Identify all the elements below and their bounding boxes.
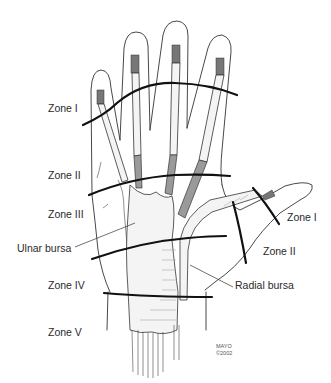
label-zone-1: Zone I [48, 103, 78, 114]
flexor-tendons [97, 45, 275, 378]
label-thumb-zone-2: Zone II [263, 246, 296, 257]
thumb-zone-line-2 [233, 202, 246, 263]
radial-bursa-leader [190, 265, 233, 287]
label-zone-5: Zone V [48, 327, 82, 338]
copyright-credit: MAYO ©2002 [216, 343, 232, 357]
label-thumb-zone-1: Zone I [287, 212, 317, 223]
credit-line-1: MAYO [216, 343, 232, 350]
label-zone-4: Zone IV [48, 280, 85, 291]
label-zone-2: Zone II [48, 170, 81, 181]
hand-zones-diagram: Zone I Zone II Zone III Zone IV Zone V Z… [0, 0, 331, 383]
label-zone-3: Zone III [48, 209, 84, 220]
label-radial-bursa: Radial bursa [235, 280, 294, 291]
zone-line-2 [89, 175, 230, 195]
credit-line-2: ©2002 [216, 350, 232, 357]
label-ulnar-bursa: Ulnar bursa [17, 243, 71, 254]
